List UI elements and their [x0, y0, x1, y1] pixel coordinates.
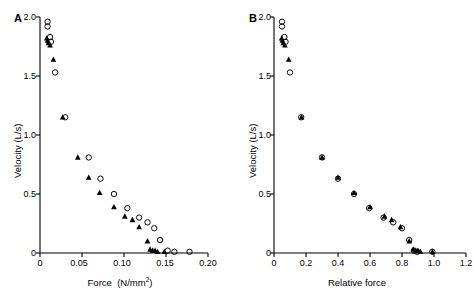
- panel-a-xtick-1: 0.05: [65, 258, 93, 268]
- panel-b-yaxis-title: Velocity (L/s): [247, 124, 258, 178]
- marker-filled-triangle: [136, 224, 142, 229]
- panel-b-xtick-6: 1.2: [453, 258, 473, 268]
- marker-open-circle: [152, 226, 157, 231]
- marker-filled-triangle: [145, 238, 151, 243]
- marker-filled-triangle: [111, 204, 117, 209]
- marker-filled-triangle: [367, 204, 373, 209]
- marker-filled-triangle: [51, 56, 57, 61]
- panel-b-xtick-0: 0: [261, 258, 287, 268]
- panel-a: A 0 0.5 1.0 1.5 2.0 0 0.05 0.10 0.15 0.2…: [0, 0, 236, 299]
- marker-filled-triangle: [130, 217, 136, 222]
- marker-filled-triangle: [86, 174, 92, 179]
- panel-a-ytick-1: 0.5: [0, 189, 36, 199]
- panel-b-xtick-4: 0.8: [389, 258, 415, 268]
- panel-a-ytick-0: 0: [0, 248, 36, 258]
- marker-open-circle: [145, 220, 150, 225]
- panel-a-yaxis-title: Velocity (L/s): [12, 124, 23, 178]
- panel-b-xtick-1: 0.2: [293, 258, 319, 268]
- marker-open-circle: [172, 249, 177, 254]
- panel-b-ytick-3: 1.5: [237, 71, 271, 81]
- marker-open-circle: [157, 237, 162, 242]
- marker-open-circle: [187, 249, 192, 254]
- marker-open-circle: [111, 191, 116, 196]
- marker-open-circle: [86, 155, 91, 160]
- marker-filled-triangle: [382, 213, 388, 218]
- marker-filled-triangle: [398, 224, 404, 229]
- panel-a-xaxis-title-main: Force: [88, 277, 112, 288]
- series-filled-triangle: [279, 35, 435, 254]
- marker-filled-triangle: [122, 213, 128, 218]
- series-open-circle: [45, 19, 192, 255]
- panel-b-ytick-4: 2.0: [237, 12, 271, 22]
- figure-container: A 0 0.5 1.0 1.5 2.0 0 0.05 0.10 0.15 0.2…: [0, 0, 473, 299]
- series-open-circle: [279, 19, 435, 255]
- panel-b-ytick-1: 0.5: [237, 189, 271, 199]
- panel-b-xtick-3: 0.6: [357, 258, 383, 268]
- panel-b: B 0 0.5 1.0 1.5 2.0 0 0.2 0.4 0.6 0.8 1.…: [237, 0, 473, 299]
- panel-b-xaxis-title: Relative force: [287, 277, 427, 288]
- marker-open-circle: [52, 70, 57, 75]
- panel-a-ytick-4: 2.0: [0, 12, 36, 22]
- panel-a-xaxis-title: Force (N/mm2): [50, 277, 190, 288]
- panel-a-xaxis-title-units: (N/mm: [117, 277, 146, 288]
- panel-b-xtick-2: 0.4: [325, 258, 351, 268]
- panel-a-xaxis-title-units-close: ): [149, 277, 152, 288]
- panel-a-xtick-2: 0.10: [108, 258, 136, 268]
- marker-filled-triangle: [161, 249, 167, 254]
- marker-filled-triangle: [75, 154, 81, 159]
- marker-open-circle: [136, 215, 141, 220]
- panel-a-ytick-3: 1.5: [0, 71, 36, 81]
- panel-a-xtick-0: 0: [26, 258, 54, 268]
- panel-b-ytick-0: 0: [237, 248, 271, 258]
- panel-b-plot: [237, 0, 473, 299]
- marker-open-circle: [287, 70, 292, 75]
- panel-a-xtick-4: 0.20: [194, 258, 222, 268]
- marker-filled-triangle: [97, 190, 103, 195]
- marker-open-circle: [98, 176, 103, 181]
- marker-filled-triangle: [286, 56, 292, 61]
- panel-a-xtick-3: 0.15: [151, 258, 179, 268]
- marker-open-circle: [125, 205, 130, 210]
- series-filled-triangle: [44, 35, 167, 254]
- panel-b-xtick-5: 1.0: [421, 258, 447, 268]
